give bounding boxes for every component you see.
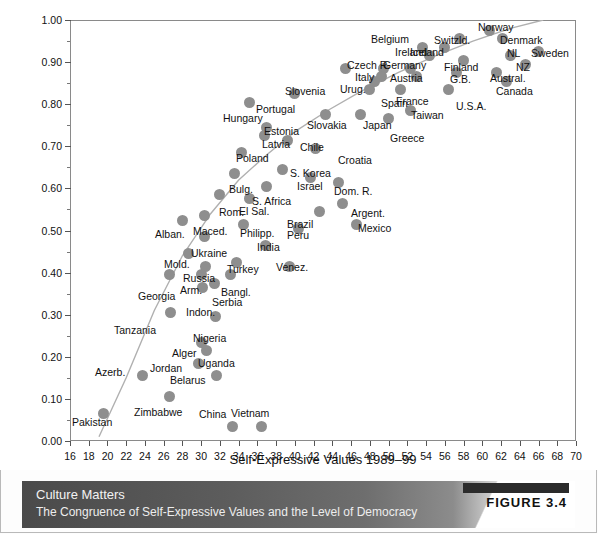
data-point-label: Japan xyxy=(363,120,392,131)
y-tick-label: 0.50 xyxy=(22,225,62,237)
data-point-label: Slovenia xyxy=(285,86,325,97)
y-tick xyxy=(65,188,71,189)
y-tick-minor xyxy=(67,378,70,379)
data-point xyxy=(177,215,188,226)
data-point-label: Uganda xyxy=(198,358,235,369)
y-tick-minor xyxy=(67,209,70,210)
y-tick xyxy=(65,357,71,358)
data-point-label: Norway xyxy=(478,22,514,33)
x-tick xyxy=(445,441,446,446)
x-tick xyxy=(276,441,277,446)
data-point-label: U.S.A. xyxy=(456,101,486,112)
data-point-label: Georgia xyxy=(138,291,175,302)
data-point-label: Switzld. xyxy=(434,35,470,46)
data-point-label: Alban. xyxy=(155,229,185,240)
y-tick-label: 1.00 xyxy=(22,14,62,26)
y-tick-label: 0.80 xyxy=(22,98,62,110)
y-tick xyxy=(65,146,71,147)
data-point-label: Pakistan xyxy=(72,417,112,428)
x-tick xyxy=(389,441,390,446)
data-point-label: Mexico xyxy=(358,223,391,234)
figure-tab-bar xyxy=(463,483,569,493)
data-point-label: Argent. xyxy=(351,208,385,219)
data-point-label: Denmark xyxy=(500,35,543,46)
data-point-label: Estonia xyxy=(264,126,299,137)
data-point-label: Latvia xyxy=(262,139,290,150)
x-tick xyxy=(257,441,258,446)
data-point-label: Poland xyxy=(236,153,269,164)
data-point-label: China xyxy=(199,409,226,420)
data-point-label: Indon. xyxy=(186,307,215,318)
x-tick xyxy=(407,441,408,446)
data-point-label: Tanzania xyxy=(114,325,156,336)
data-point-label: Venez. xyxy=(276,262,308,273)
x-tick xyxy=(464,441,465,446)
data-point-label: Philipp. xyxy=(240,228,274,239)
x-tick xyxy=(482,441,483,446)
data-point-label: Nigeria xyxy=(193,333,226,344)
y-tick xyxy=(65,104,71,105)
y-tick-label: 0.60 xyxy=(22,182,62,194)
data-point-label: Taiwan xyxy=(411,110,444,121)
x-tick xyxy=(314,441,315,446)
data-point-label: Finland xyxy=(444,62,478,73)
y-tick-minor xyxy=(67,167,70,168)
data-point xyxy=(165,307,176,318)
caption-subtitle: The Congruence of Self-Expressive Values… xyxy=(36,505,417,519)
y-tick-label: 0.70 xyxy=(22,140,62,152)
data-point-label: Germany xyxy=(383,60,426,71)
y-tick-label: 0.00 xyxy=(22,435,62,447)
y-tick xyxy=(65,399,71,400)
y-tick-minor xyxy=(67,294,70,295)
data-point-label: Zimbabwe xyxy=(134,407,182,418)
y-tick xyxy=(65,273,71,274)
data-point xyxy=(211,370,222,381)
y-tick-minor xyxy=(67,252,70,253)
data-point-label: India xyxy=(257,242,280,253)
data-point-label: Bulg. xyxy=(229,184,253,195)
x-tick xyxy=(539,441,540,446)
data-point xyxy=(314,206,325,217)
y-tick xyxy=(65,20,71,21)
x-tick xyxy=(557,441,558,446)
data-point-label: Israel xyxy=(297,181,323,192)
data-point xyxy=(337,198,348,209)
data-point-label: Belarus xyxy=(170,375,206,386)
data-point xyxy=(244,97,255,108)
caption-bar: Culture Matters The Congruence of Self-E… xyxy=(22,481,575,528)
data-point-label: G.B. xyxy=(450,74,471,85)
x-tick xyxy=(89,441,90,446)
x-tick xyxy=(107,441,108,446)
x-tick xyxy=(370,441,371,446)
data-point-label: Greece xyxy=(390,133,424,144)
data-point-label: Ireland xyxy=(395,47,427,58)
data-point-label: Sweden xyxy=(531,48,569,59)
x-tick xyxy=(295,441,296,446)
caption-title: Culture Matters xyxy=(36,487,125,502)
x-tick xyxy=(351,441,352,446)
data-point xyxy=(164,269,175,280)
x-axis-title: Self-Expressive Values 1989–99 xyxy=(70,452,576,467)
data-point-label: Croatia xyxy=(338,155,372,166)
data-point xyxy=(256,421,267,432)
x-tick xyxy=(182,441,183,446)
data-point-label: Turkey xyxy=(227,264,259,275)
data-point-label: Ukraine xyxy=(191,248,227,259)
x-tick xyxy=(520,441,521,446)
data-point-label: Peru xyxy=(287,230,309,241)
x-tick xyxy=(201,441,202,446)
y-tick-label: 0.30 xyxy=(22,309,62,321)
y-tick xyxy=(65,62,71,63)
data-point-label: Mold. xyxy=(164,259,190,270)
data-point-label: Azerb. xyxy=(95,367,125,378)
figure-number: FIGURE 3.4 xyxy=(486,495,567,510)
data-point-label: Russia xyxy=(183,273,215,284)
data-point-label: NL xyxy=(507,48,520,59)
data-point-label: Maced. xyxy=(193,226,227,237)
data-point-label: France xyxy=(396,96,429,107)
data-point-label: Slovakia xyxy=(307,120,347,131)
data-point-label: Arm. xyxy=(180,285,202,296)
data-point xyxy=(199,210,210,221)
y-tick-minor xyxy=(67,41,70,42)
y-tick-label: 0.90 xyxy=(22,56,62,68)
